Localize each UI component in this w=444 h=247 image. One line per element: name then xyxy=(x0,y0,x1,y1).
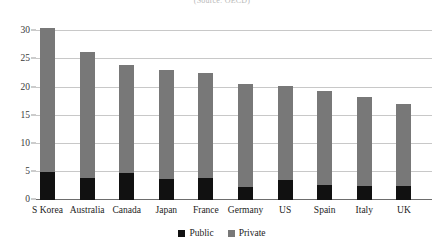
y-tick-mark xyxy=(31,114,36,115)
bar-segment-private xyxy=(80,52,95,178)
bar-segment-public xyxy=(317,185,332,200)
bar-segment-private xyxy=(238,84,253,188)
bar-segment-private xyxy=(357,97,372,186)
y-tick-mark xyxy=(31,86,36,87)
bar-group[interactable]: France xyxy=(198,73,213,200)
legend-label: Public xyxy=(189,228,213,238)
bar-segment-public xyxy=(198,178,213,200)
bar-group[interactable]: US xyxy=(278,86,293,200)
y-tick-label: 15 xyxy=(21,110,31,120)
bar-segment-public xyxy=(40,172,55,200)
legend-item[interactable]: Private xyxy=(228,228,266,238)
bar-segment-private xyxy=(119,65,134,173)
legend-swatch-icon xyxy=(228,230,235,237)
y-tick-label: 20 xyxy=(21,82,31,92)
x-tick-label: Spain xyxy=(314,205,336,215)
bar-segment-private xyxy=(40,28,55,172)
bar-group[interactable]: S Korea xyxy=(40,28,55,200)
bar-segment-private xyxy=(278,86,293,180)
y-tick-mark xyxy=(31,30,36,31)
bar-group[interactable]: Japan xyxy=(159,70,174,201)
bar-segment-public xyxy=(278,180,293,200)
y-gridline: 10 xyxy=(36,143,432,144)
bar-segment-private xyxy=(198,73,213,178)
bar-segment-public xyxy=(357,186,372,200)
bar-group[interactable]: Italy xyxy=(357,97,372,200)
y-gridline: 25 xyxy=(36,58,432,59)
x-tick-label: Canada xyxy=(112,205,141,215)
plot-area: 051015202530S KoreaAustraliaCanadaJapanF… xyxy=(36,20,432,200)
y-gridline: 15 xyxy=(36,115,432,116)
bar-segment-private xyxy=(159,70,174,180)
y-tick-mark xyxy=(31,170,36,171)
y-tick-mark xyxy=(31,58,36,59)
y-tick-label: 5 xyxy=(25,166,30,176)
y-tick-label: 25 xyxy=(21,53,31,63)
x-tick-label: S Korea xyxy=(32,205,63,215)
chart-source-note: (Source: OECD) xyxy=(0,0,444,5)
x-tick-label: France xyxy=(193,205,219,215)
chart-legend: PublicPrivate xyxy=(0,228,444,238)
legend-item[interactable]: Public xyxy=(178,228,213,238)
y-tick-label: 10 xyxy=(21,138,31,148)
y-gridline: 20 xyxy=(36,87,432,88)
bar-segment-private xyxy=(396,104,411,186)
y-tick-mark xyxy=(31,199,36,200)
bar-segment-private xyxy=(317,91,332,185)
bar-group[interactable]: Germany xyxy=(238,84,253,200)
bar-segment-public xyxy=(119,173,134,200)
bar-group[interactable]: UK xyxy=(396,104,411,200)
x-tick-label: Germany xyxy=(228,205,263,215)
bar-segment-public xyxy=(159,179,174,200)
stacked-bar-chart: (Source: OECD) 051015202530S KoreaAustra… xyxy=(0,0,444,247)
y-gridline: 5 xyxy=(36,171,432,172)
y-gridline: 0 xyxy=(36,199,432,200)
bar-segment-public xyxy=(80,178,95,200)
y-tick-label: 0 xyxy=(25,194,30,204)
bar-segment-public xyxy=(238,187,253,200)
bar-group[interactable]: Canada xyxy=(119,65,134,200)
legend-swatch-icon xyxy=(178,230,185,237)
x-tick-label: UK xyxy=(397,205,411,215)
bar-segment-public xyxy=(396,186,411,200)
y-gridline: 30 xyxy=(36,30,432,31)
y-tick-label: 30 xyxy=(21,25,31,35)
bar-group[interactable]: Spain xyxy=(317,91,332,200)
x-tick-label: Australia xyxy=(70,205,105,215)
y-tick-mark xyxy=(31,142,36,143)
x-tick-label: US xyxy=(279,205,291,215)
bar-group[interactable]: Australia xyxy=(80,52,95,200)
x-tick-label: Italy xyxy=(356,205,373,215)
x-tick-label: Japan xyxy=(155,205,177,215)
legend-label: Private xyxy=(239,228,266,238)
